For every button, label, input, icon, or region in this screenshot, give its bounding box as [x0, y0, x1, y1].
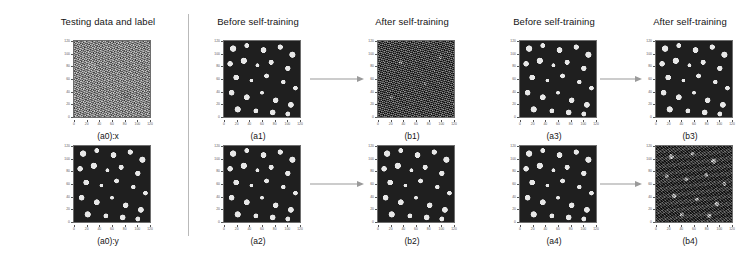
y-tick-label: 60	[648, 182, 652, 186]
x-tick	[596, 120, 597, 122]
x-tick	[237, 225, 238, 227]
x-tick-label: 80	[273, 227, 277, 231]
x-axis-a0y: 020406080100120	[73, 225, 151, 234]
x-tick-label: 60	[110, 227, 114, 231]
plot-area-a2	[223, 145, 301, 223]
x-tick	[87, 120, 88, 122]
y-tick-label: 20	[66, 207, 70, 211]
x-tick-label: 0	[377, 227, 379, 231]
x-tick	[545, 120, 546, 122]
x-tick-label: 0	[377, 122, 379, 126]
x-tick	[224, 225, 225, 227]
image-panel-b3: 120100806040200020406080100120(b3)	[647, 40, 733, 141]
x-tick	[237, 120, 238, 122]
y-tick-label: 80	[370, 169, 374, 173]
x-tick	[275, 225, 276, 227]
y-tick-label: 0	[68, 115, 70, 119]
x-tick	[99, 120, 100, 122]
x-tick-label: 120	[147, 122, 153, 126]
y-tick-label: 80	[216, 64, 220, 68]
x-tick-label: 80	[123, 227, 127, 231]
x-tick	[74, 225, 75, 227]
y-tick-label: 60	[648, 77, 652, 81]
x-tick	[520, 225, 521, 227]
y-tick-label: 40	[648, 195, 652, 199]
y-tick-label: 80	[648, 169, 652, 173]
column-header-testing-data-and-label: Testing data and label	[61, 16, 156, 27]
x-tick-label: 60	[692, 122, 696, 126]
y-axis-b2: 120100806040200	[369, 145, 377, 223]
x-tick-label: 120	[729, 227, 735, 231]
y-tick-label: 80	[512, 64, 516, 68]
x-tick-label: 40	[401, 227, 405, 231]
y-tick-label: 100	[646, 52, 652, 56]
y-axis-a4: 120100806040200	[511, 145, 519, 223]
x-tick-label: 120	[729, 122, 735, 126]
y-tick-label: 0	[372, 220, 374, 224]
x-axis-b3: 020406080100120	[655, 120, 733, 129]
x-tick	[287, 225, 288, 227]
column-header-before-self-training-2: Before self-training	[513, 16, 595, 27]
y-tick-label: 100	[510, 52, 516, 56]
raster-image-b2	[378, 146, 454, 222]
x-tick-label: 80	[705, 227, 709, 231]
x-tick	[571, 120, 572, 122]
panel-caption-b1: (b1)	[369, 131, 455, 141]
x-axis-a0x: 020406080100120	[73, 120, 151, 129]
panel-caption-a0x: (a0):x	[65, 131, 151, 141]
x-tick	[224, 120, 225, 122]
x-tick-label: 0	[519, 227, 521, 231]
y-tick-label: 20	[216, 102, 220, 106]
y-tick-label: 0	[514, 220, 516, 224]
x-tick-label: 120	[297, 122, 303, 126]
y-tick-label: 0	[650, 220, 652, 224]
x-axis-b4: 020406080100120	[655, 225, 733, 234]
x-tick	[125, 120, 126, 122]
y-axis-a0x: 120100806040200	[65, 40, 73, 118]
arrow-a3-b3	[600, 74, 642, 84]
y-tick-label: 100	[368, 52, 374, 56]
raster-image-a2	[224, 146, 300, 222]
y-axis-a2: 120100806040200	[215, 145, 223, 223]
panel-caption-b2: (b2)	[369, 236, 455, 246]
x-tick	[719, 120, 720, 122]
x-tick-label: 80	[123, 122, 127, 126]
y-tick-label: 80	[648, 64, 652, 68]
x-tick	[416, 120, 417, 122]
image-panel-b4: 120100806040200020406080100120(b4)	[647, 145, 733, 246]
x-tick-label: 20	[531, 227, 535, 231]
x-tick-label: 80	[273, 122, 277, 126]
y-tick-label: 100	[510, 157, 516, 161]
y-tick-label: 60	[512, 182, 516, 186]
x-tick	[275, 120, 276, 122]
x-tick-label: 40	[97, 122, 101, 126]
x-tick	[520, 120, 521, 122]
x-tick	[429, 120, 430, 122]
raster-image-a4	[520, 146, 596, 222]
x-tick-label: 120	[147, 227, 153, 231]
x-tick	[429, 225, 430, 227]
x-tick	[583, 120, 584, 122]
x-tick	[416, 225, 417, 227]
y-tick-label: 60	[370, 77, 374, 81]
x-tick	[403, 120, 404, 122]
x-tick-label: 100	[716, 122, 722, 126]
x-tick-label: 40	[247, 122, 251, 126]
y-tick-label: 40	[216, 90, 220, 94]
x-tick-label: 100	[716, 227, 722, 231]
y-tick-label: 120	[646, 144, 652, 148]
x-tick	[262, 120, 263, 122]
x-tick	[533, 225, 534, 227]
image-panel-a2: 120100806040200020406080100120(a2)	[215, 145, 301, 246]
y-tick-label: 60	[216, 77, 220, 81]
y-tick-label: 120	[510, 144, 516, 148]
y-tick-label: 0	[218, 115, 220, 119]
x-tick-label: 100	[134, 227, 140, 231]
y-tick-label: 20	[648, 207, 652, 211]
image-panel-a0y: 120100806040200020406080100120(a0):y	[65, 145, 151, 246]
y-tick-label: 60	[66, 182, 70, 186]
x-tick-label: 60	[556, 122, 560, 126]
x-tick	[441, 225, 442, 227]
x-axis-a3: 020406080100120	[519, 120, 597, 129]
x-tick-label: 60	[414, 227, 418, 231]
